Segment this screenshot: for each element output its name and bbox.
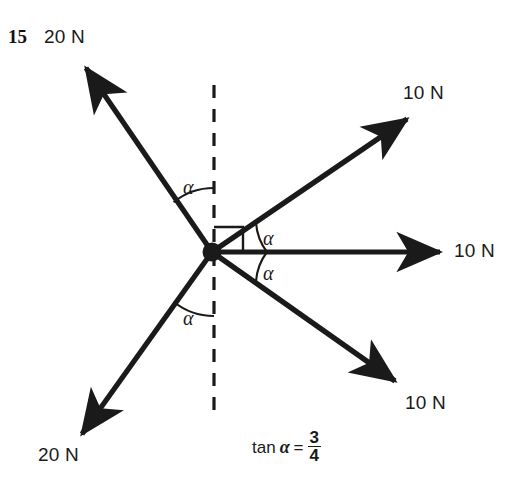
equation-lhs: tan bbox=[252, 438, 276, 458]
vector-upper-left-20n bbox=[86, 68, 212, 252]
angle-label-upper-right: α bbox=[263, 227, 274, 250]
question-number: 15 bbox=[8, 26, 27, 48]
origin-point bbox=[203, 243, 222, 262]
tan-alpha-equation: tan α = 3 4 bbox=[252, 430, 321, 466]
vector-label-lower-left-20n: 20 N bbox=[38, 444, 79, 466]
equation-fraction: 3 4 bbox=[308, 429, 321, 465]
equation-denominator: 4 bbox=[308, 446, 321, 464]
equation-equals: = bbox=[294, 438, 304, 458]
force-vector-diagram: 15 20 N 10 N 10 N 10 N 20 N α α α α tan … bbox=[0, 0, 508, 484]
vector-label-right-horizontal-10n: 10 N bbox=[454, 240, 495, 262]
vector-label-upper-left-20n: 20 N bbox=[44, 26, 85, 48]
angle-label-upper-left: α bbox=[183, 176, 194, 199]
vector-lower-right-10n bbox=[212, 252, 395, 381]
vector-lower-left-20n bbox=[82, 252, 212, 434]
vector-upper-right-10n bbox=[212, 119, 407, 252]
equation-alpha-symbol: α bbox=[280, 437, 290, 458]
angle-label-lower-left: α bbox=[183, 307, 194, 330]
vector-label-upper-right-10n: 10 N bbox=[403, 82, 444, 104]
angle-label-lower-right: α bbox=[263, 262, 274, 285]
equation-numerator: 3 bbox=[308, 429, 321, 446]
vector-label-lower-right-10n: 10 N bbox=[405, 392, 446, 414]
